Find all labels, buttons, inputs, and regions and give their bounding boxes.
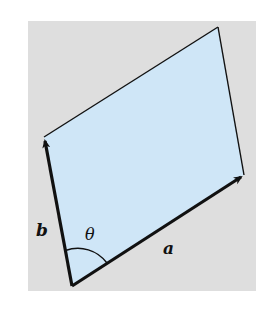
label-theta: θ — [85, 225, 95, 244]
label-b: b — [36, 220, 48, 240]
label-a: a — [163, 238, 174, 258]
parallelogram-diagram: b θ a — [0, 0, 269, 310]
